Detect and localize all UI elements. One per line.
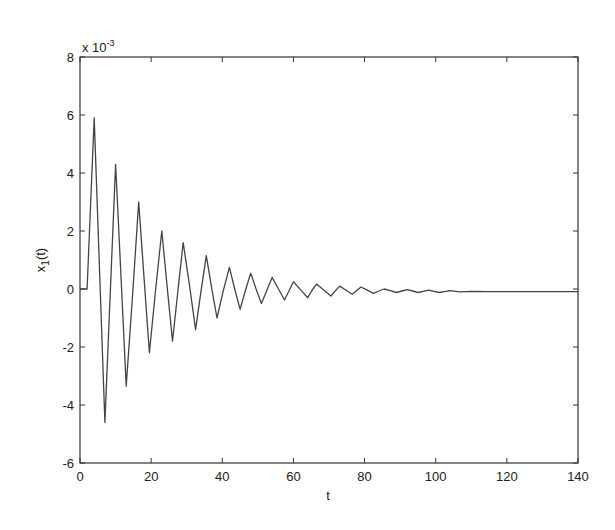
y-tick-label: 2 — [67, 224, 74, 239]
x-axis-label: t — [326, 488, 330, 503]
x-tick-label: 60 — [286, 469, 300, 484]
chart-figure: 020406080100120140 -6-4-202468 x 10-3 t … — [0, 0, 615, 530]
axes-box — [80, 57, 578, 463]
x-tick-label: 20 — [144, 469, 158, 484]
y-tick-label: 0 — [67, 282, 74, 297]
x-tick-label: 120 — [496, 469, 518, 484]
y-tick-label: 8 — [67, 50, 74, 65]
y-tick-label: 4 — [67, 166, 74, 181]
x-tick-label: 0 — [76, 469, 83, 484]
y-tick-label: -6 — [62, 456, 74, 471]
y-tick-label: -4 — [62, 398, 74, 413]
x-tick-label: 40 — [215, 469, 229, 484]
y-tick-label: 6 — [67, 108, 74, 123]
x-tick-label: 100 — [425, 469, 447, 484]
y-tick-label: -2 — [62, 340, 74, 355]
x-tick-label: 140 — [567, 469, 589, 484]
plot-area: 020406080100120140 -6-4-202468 — [62, 50, 588, 484]
x-tick-label: 80 — [357, 469, 371, 484]
